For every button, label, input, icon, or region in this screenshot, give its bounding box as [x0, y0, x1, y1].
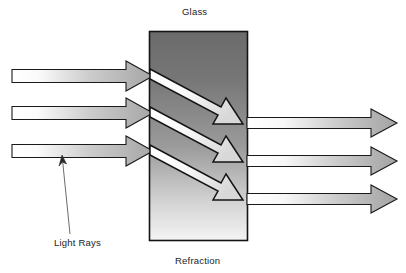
emergent-ray-3 [247, 185, 397, 213]
incident-ray-3 [12, 136, 153, 166]
emergent-ray-1 [247, 109, 397, 137]
figure-caption: Refraction [175, 255, 220, 266]
incident-ray-1 [12, 61, 153, 91]
emergent-ray-2 [247, 147, 397, 175]
incident-ray-2 [12, 98, 153, 128]
leader-line [63, 160, 71, 234]
diagram-canvas [0, 0, 406, 273]
refraction-diagram: Glass Refraction Light Rays [0, 0, 406, 273]
light-rays-label: Light Rays [54, 237, 101, 248]
glass-label: Glass [182, 6, 207, 17]
